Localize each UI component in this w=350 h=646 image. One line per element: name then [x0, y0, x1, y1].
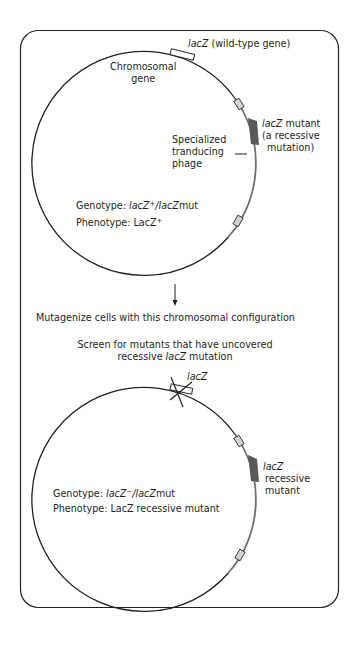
allele-2: lacZ: [136, 488, 156, 499]
gene-name: lacZ: [262, 118, 282, 129]
label-line: (a recessive: [262, 130, 320, 142]
top-att-box-upper: [234, 98, 244, 110]
label-line: recessive: [263, 473, 310, 485]
gene-name: lacZ: [263, 461, 310, 473]
screen-line-1: Screen for mutants that have uncovered: [0, 339, 350, 351]
label-line: mutation): [262, 142, 320, 154]
phenotype-sup: +: [157, 217, 163, 225]
label-line: phage: [172, 158, 226, 170]
allele-1: lacZ: [106, 488, 126, 499]
bottom-lacz-mutant-block: [248, 455, 259, 482]
allele-2-suffix: mut: [156, 488, 175, 499]
label-line: Chromosomal: [110, 61, 176, 73]
top-wildtype-label: lacZ (wild-type gene): [188, 38, 290, 50]
bottom-att-box-lower: [235, 549, 245, 561]
mutagenize-step: Mutagenize cells with this chromosomal c…: [36, 312, 295, 324]
bottom-genotype: Genotype: lacZ−/lacZmut: [53, 486, 175, 500]
top-phenotype: Phenotype: LacZ+: [76, 215, 162, 229]
bottom-mutant-label: lacZ recessive mutant: [263, 461, 310, 497]
screen-suffix: mutation: [186, 351, 233, 362]
bottom-lacz-box: [170, 384, 193, 394]
screen-step: Screen for mutants that have uncovered r…: [0, 339, 350, 363]
genotype-prefix: Genotype:: [53, 488, 106, 499]
label-suffix: (wild-type gene): [208, 38, 290, 49]
allele-1: lacZ: [129, 200, 149, 211]
label-line: tranducing: [172, 146, 226, 158]
bottom-knocked-lacz-label: lacZ: [187, 371, 207, 383]
top-genotype: Genotype: lacZ+/lacZmut: [76, 198, 198, 212]
top-lacz-mutant-block: [248, 118, 259, 145]
allele-2: lacZ: [159, 200, 179, 211]
phage-label: Specialized tranducing phage: [172, 134, 226, 170]
label-suffix: mutant: [282, 118, 320, 129]
top-att-box-lower: [233, 215, 243, 227]
bottom-att-box-upper: [234, 435, 244, 447]
screen-line-2: recessive lacZ mutation: [0, 351, 350, 363]
label-line: gene: [110, 73, 176, 85]
down-arrow: [173, 284, 178, 306]
label-line: mutant: [263, 485, 310, 497]
chromosomal-gene-label: Chromosomal gene: [110, 61, 176, 85]
gene-name: lacZ: [166, 351, 186, 362]
phenotype-text: Phenotype: LacZ: [76, 217, 157, 228]
bottom-phenotype: Phenotype: LacZ recessive mutant: [53, 503, 220, 515]
screen-prefix: recessive: [117, 351, 165, 362]
genotype-prefix: Genotype:: [76, 200, 129, 211]
gene-name: lacZ: [188, 38, 208, 49]
allele-2-suffix: mut: [179, 200, 198, 211]
top-mutant-label: lacZ mutant (a recessive mutation): [262, 118, 320, 154]
label-line: Specialized: [172, 134, 226, 146]
